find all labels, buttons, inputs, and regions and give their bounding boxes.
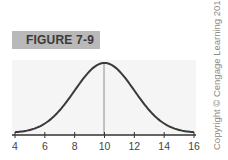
x-tick-label: 14 [158, 140, 170, 152]
x-tick-label: 6 [42, 140, 48, 152]
x-tick-label: 4 [12, 140, 18, 152]
x-tick-label: 10 [99, 140, 111, 152]
x-tick-label: 16 [188, 140, 200, 152]
normal-distribution-chart: 46810121416 [0, 0, 228, 160]
x-tick-label: 12 [128, 140, 140, 152]
copyright-text: Copyright © Cengage Learning 2013 [211, 0, 222, 150]
x-tick-label: 8 [72, 140, 78, 152]
